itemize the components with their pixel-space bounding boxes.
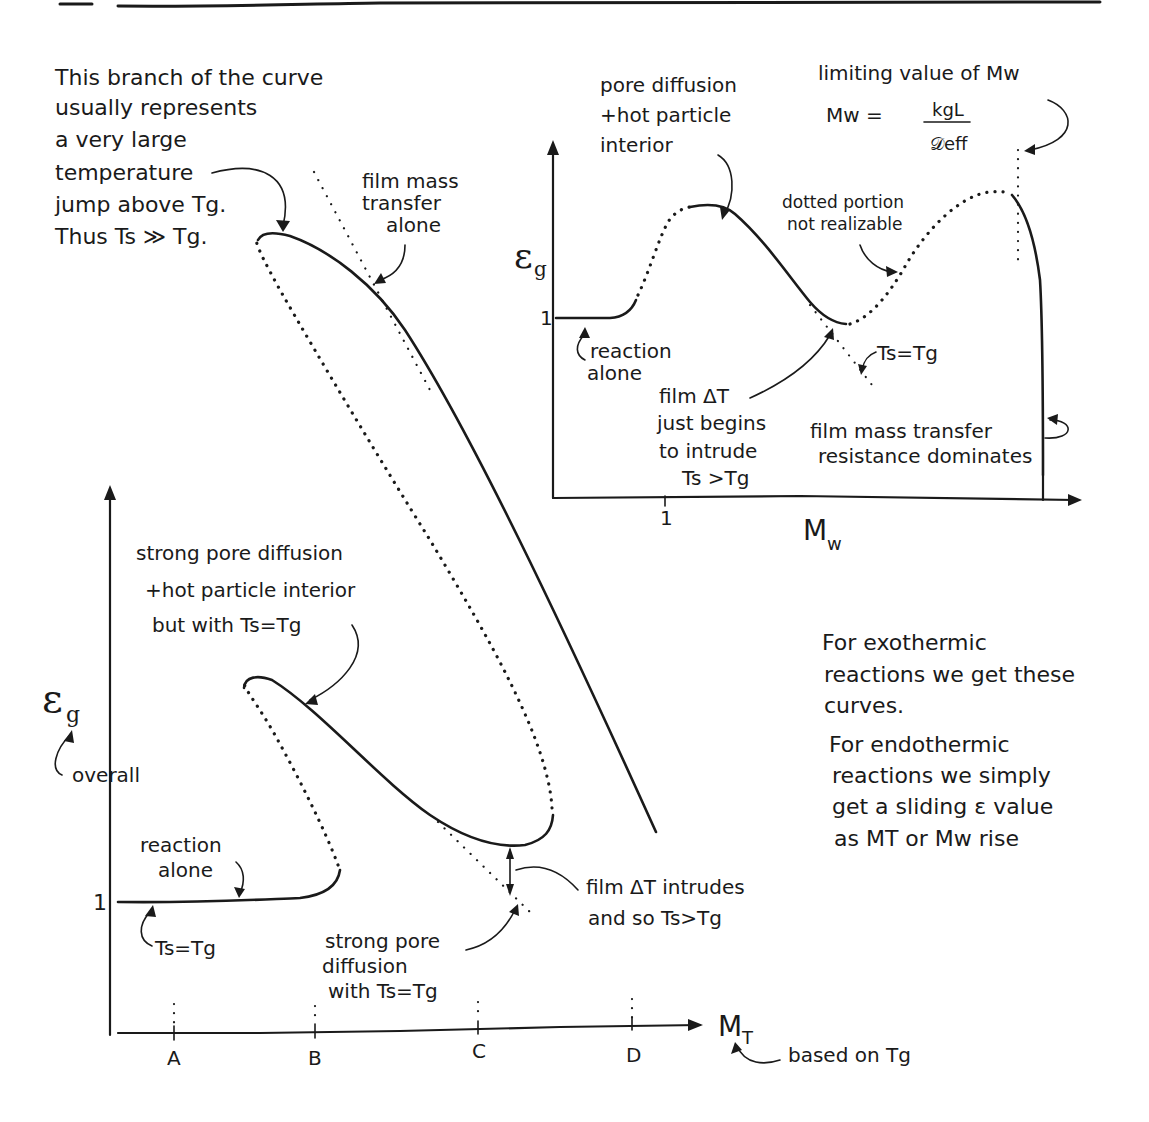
- x-axis-label-sub: T: [741, 1027, 754, 1048]
- curve-large-temperature-jump: [258, 233, 656, 832]
- arrow-head-icon: [509, 904, 519, 916]
- formula-numerator: kgL: [932, 99, 964, 120]
- inset-film-dt-arrow: [750, 335, 830, 398]
- arrow-head-icon: [506, 884, 514, 896]
- ts-tg-arrow: [141, 912, 152, 946]
- inset-chart: ε g 1 1 M w pore diffusion +hot particle…: [514, 61, 1082, 554]
- annotation-line: diffusion: [322, 954, 408, 978]
- y-tick-label: 1: [93, 890, 107, 915]
- inset-annotation-ts-tg: Ts=Tg: [876, 341, 938, 365]
- note-line: This branch of the curve: [54, 65, 323, 90]
- inset-y-axis-label-sub: g: [534, 257, 547, 281]
- y-axis-label-sub: g: [66, 702, 80, 727]
- inset-curve-unrealizable-1: [638, 207, 690, 295]
- inset-annotation-line: to intrude: [659, 439, 757, 463]
- formula-lhs: Mw =: [826, 103, 883, 127]
- note-line: Thus Ts ≫ Tg.: [54, 224, 207, 249]
- x-tick-label: A: [167, 1046, 181, 1070]
- limiting-label: limiting value of Mw: [818, 61, 1020, 85]
- x-axis: [118, 1025, 700, 1033]
- formula-denominator: 𝒟eff: [930, 133, 968, 154]
- film-mass-transfer-note: film mass transfer alone: [362, 169, 459, 284]
- note-line: For exothermic: [822, 630, 987, 655]
- film-arrow: [380, 245, 405, 280]
- exo-endo-note: For exothermic reactions we get these cu…: [822, 630, 1075, 851]
- note-line: as MT or Mw rise: [834, 826, 1019, 851]
- annotation-line: film ΔT intrudes: [586, 875, 745, 899]
- note-line: reactions we simply: [832, 763, 1051, 788]
- inset-annotation-line: resistance dominates: [818, 444, 1032, 468]
- asymptote-strong-pore-diffusion: [438, 822, 530, 912]
- inset-reaction-arrow: [577, 335, 585, 360]
- limiting-arrow: [1030, 100, 1068, 150]
- note-line: transfer: [362, 191, 442, 215]
- arrow-head-icon: [145, 905, 156, 917]
- arrow-head-icon: [579, 327, 590, 338]
- inset-curve-reaction-alone: [556, 300, 636, 318]
- inset-y-tick: 1: [540, 306, 553, 330]
- curve-reaction-alone: [118, 870, 340, 902]
- x-axis-label: M: [718, 1010, 742, 1043]
- inset-x-axis-label: M: [803, 514, 827, 547]
- x-tick-label: B: [308, 1046, 322, 1070]
- annotation-line: strong pore: [325, 929, 440, 953]
- inset-annotation-line: interior: [600, 133, 673, 157]
- main-chart: ε g overall 1 A B C D M T based on Tg: [42, 172, 911, 1070]
- x-tick-label: D: [626, 1043, 641, 1067]
- note-line: jump above Tg.: [54, 192, 226, 217]
- arrow-head-icon: [64, 730, 74, 743]
- note-line: film mass: [362, 169, 459, 193]
- inset-x-axis-label-sub: w: [827, 533, 842, 554]
- arrow-head-icon: [305, 694, 318, 705]
- arrow-head-icon: [824, 328, 834, 340]
- inset-y-axis-label: ε: [514, 235, 533, 276]
- note-line: a very large: [55, 127, 187, 152]
- note-line: get a sliding ε value: [832, 794, 1053, 819]
- curve-unrealizable-upper: [256, 240, 552, 808]
- y-axis-arrow-icon: [104, 485, 116, 500]
- pore-hot-arrow: [310, 625, 358, 700]
- y-axis-sub-label: overall: [72, 763, 140, 787]
- annotation-line: strong pore diffusion: [136, 541, 343, 565]
- strong-pore-arrow: [466, 910, 515, 950]
- inset-x-axis: [553, 496, 1075, 500]
- note-line: For endothermic: [829, 732, 1010, 757]
- inset-y-axis-arrow-icon: [547, 140, 559, 155]
- curve-unrealizable-lower: [244, 683, 338, 865]
- based-on-arrow: [737, 1046, 780, 1063]
- branch-note: This branch of the curve usually represe…: [54, 65, 323, 249]
- inset-asymptote-ts-tg: [810, 305, 872, 385]
- note-line: usually represents: [55, 95, 257, 120]
- inset-annotation-line: dotted portion: [782, 192, 904, 212]
- arrow-head-icon: [506, 847, 514, 859]
- inset-annotation-line: reaction: [590, 339, 672, 363]
- note-line: alone: [386, 213, 441, 237]
- inset-annotation-line: just begins: [656, 411, 766, 435]
- x-ticks: A B C D: [167, 999, 641, 1070]
- note-line: curves.: [824, 693, 904, 718]
- film-dt-leader: [516, 867, 578, 890]
- effectiveness-factor-diagram: This branch of the curve usually represe…: [0, 0, 1149, 1122]
- arrow-head-icon: [1047, 414, 1058, 425]
- arrow-head-icon: [1024, 144, 1035, 155]
- annotation-line: reaction: [140, 833, 222, 857]
- note-line: temperature: [55, 160, 193, 185]
- annotation-line: +hot particle interior: [145, 578, 356, 602]
- annotation-line: with Ts=Tg: [328, 979, 438, 1003]
- inset-annotation-line: not realizable: [787, 214, 903, 234]
- annotation-line: and so Ts>Tg: [588, 906, 722, 930]
- annotation-line: alone: [158, 858, 213, 882]
- inset-curve-film-mass-transfer: [1012, 195, 1043, 475]
- x-axis-arrow-icon: [688, 1019, 703, 1031]
- note-line: reactions we get these: [824, 662, 1075, 687]
- page-header-rule: [60, 2, 1100, 6]
- arrow-head-icon: [276, 220, 290, 232]
- x-axis-note: based on Tg: [788, 1043, 911, 1067]
- inset-x-tick-label: 1: [660, 506, 673, 530]
- y-axis-label: ε: [42, 675, 63, 721]
- inset-annotation-line: film mass transfer: [810, 419, 993, 443]
- arrow-head-icon: [886, 266, 898, 277]
- inset-annotation-line: alone: [587, 361, 642, 385]
- inset-annotation-line: film ΔT: [659, 384, 730, 408]
- inset-x-axis-arrow-icon: [1068, 494, 1082, 506]
